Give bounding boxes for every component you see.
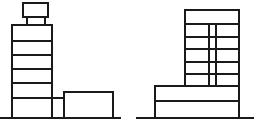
building-elevation-diagram — [0, 0, 261, 129]
left-building — [0, 3, 121, 118]
tower-outline — [12, 25, 52, 118]
right-building — [136, 10, 254, 118]
annex-outline — [64, 92, 113, 118]
rooftop-cap — [23, 3, 48, 17]
podium-outline — [155, 86, 239, 118]
